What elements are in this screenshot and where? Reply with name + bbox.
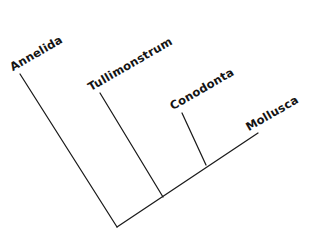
branch-spine-root-to-mollusca (117, 133, 258, 227)
cladogram-figure: Annelida Tullimonstrum Conodonta Mollusc… (0, 0, 325, 239)
branch-conodonta (182, 113, 206, 165)
branch-tullimonstrum (100, 93, 163, 197)
